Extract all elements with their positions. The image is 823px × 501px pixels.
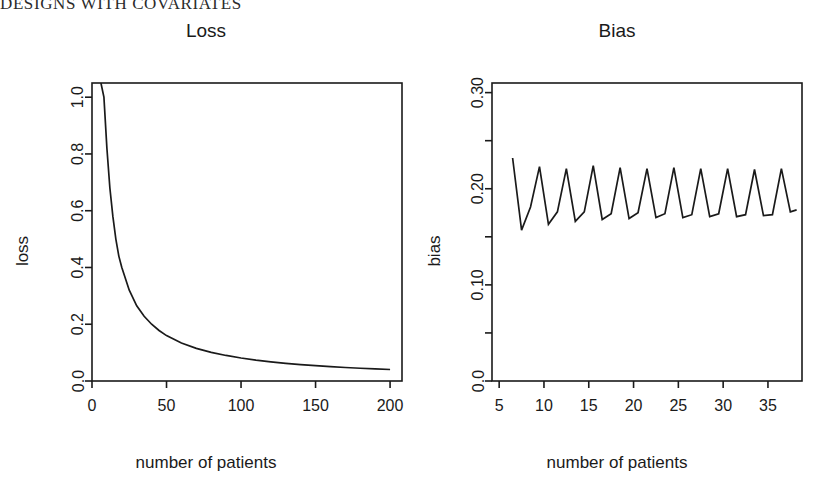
x-tick-label: 200 [377,397,404,414]
x-tick-label: 0 [88,397,97,414]
x-tick-label: 100 [228,397,255,414]
x-tick-label: 50 [158,397,176,414]
x-tick-label: 25 [669,397,687,414]
bias-plot-canvas: 51015202530350.00.100.200.30 [411,0,823,501]
x-tick-label: 150 [302,397,329,414]
y-tick-label: 0.2 [70,313,87,335]
y-tick-label: 0.4 [70,256,87,278]
y-tick-label: 0.6 [70,199,87,221]
data-series-line [513,158,797,230]
y-tick-label: 0.10 [470,269,487,300]
y-tick-label: 0.20 [470,173,487,204]
y-tick-label: 0.0 [70,370,87,392]
x-tick-label: 5 [495,397,504,414]
y-tick-label: 0.8 [70,143,87,165]
y-tick-label: 1.0 [70,86,87,108]
x-tick-label: 35 [759,397,777,414]
y-tick-label: 0.30 [470,77,487,108]
figure-root: DESIGNS WITH COVARIATES Loss loss number… [0,0,823,501]
x-tick-label: 30 [714,397,732,414]
loss-plot-canvas: 0501001502000.00.20.40.60.81.0 [0,0,412,501]
panel-loss: Loss loss number of patients 05010015020… [0,0,412,501]
y-tick-label: 0.0 [470,370,487,392]
x-tick-label: 15 [580,397,598,414]
x-tick-label: 10 [535,397,553,414]
plot-frame [92,83,402,381]
plot-frame [492,83,802,381]
data-series-line [101,83,390,370]
x-tick-label: 20 [625,397,643,414]
panel-bias: Bias bias number of patients 51015202530… [411,0,823,501]
